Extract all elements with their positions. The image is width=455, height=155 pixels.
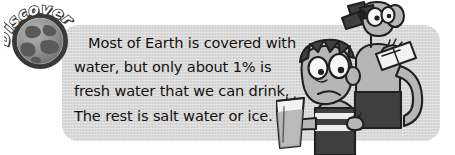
discover-callout-graphic: Most of Earth is covered with water, but…: [0, 0, 455, 155]
boy-pupil-right: [338, 67, 344, 73]
boy-striped-shirt: [315, 108, 355, 155]
glass-water: [277, 109, 303, 148]
boy-eye-right: [329, 54, 349, 78]
water-glass-icon: [276, 97, 304, 148]
boy-pupil-left: [318, 69, 324, 75]
girl-pupil-left: [374, 15, 379, 20]
girl-pupil-right: [387, 14, 392, 19]
character-illustration: .ln { stroke:#20201e; stroke-width:2.1; …: [276, 0, 455, 155]
discover-badge: Discover! Discover!: [4, 3, 76, 71]
boy-eye-left: [309, 57, 328, 79]
